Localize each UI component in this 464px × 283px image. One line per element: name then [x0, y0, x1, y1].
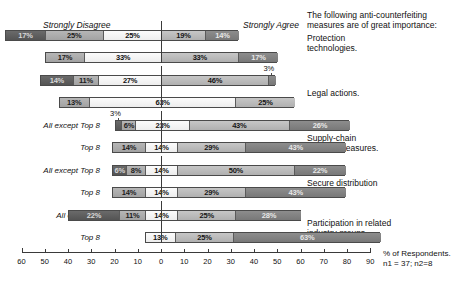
segment-value: 17%: [251, 53, 265, 62]
axis-tick-label: 70: [316, 257, 332, 266]
bar-segment: 26%: [290, 121, 350, 130]
zero-reference-line: [161, 111, 162, 153]
bar-segment: 13%: [60, 98, 90, 107]
bar-segment: [116, 121, 123, 130]
stacked-bar: 13%25%63%: [145, 232, 380, 243]
prompt-line-2: measures are of great importance:: [307, 20, 437, 31]
axis-tick: [161, 249, 162, 253]
bar-segment: 25%: [236, 98, 294, 107]
stacked-bar: 14%14%29%43%: [112, 142, 345, 153]
row-label: Top 8: [5, 188, 100, 197]
axis-tick-label: 50: [269, 257, 285, 266]
axis-tick-label: 40: [246, 257, 262, 266]
segment-value: 43%: [232, 121, 246, 130]
category-label: technologies.: [307, 43, 357, 54]
segment-callout: 3%: [263, 64, 274, 73]
bar-segment: 14%: [206, 31, 239, 40]
bar-segment: 22%: [295, 166, 346, 175]
zero-reference-line: [161, 21, 162, 63]
axis-tick-label: 20: [107, 257, 123, 266]
segment-value: 25%: [67, 31, 81, 40]
bar-segment: 6%: [113, 166, 127, 175]
axis-tick: [254, 249, 255, 253]
category-label: Legal actions.: [307, 88, 359, 99]
bar-segment: 17%: [46, 53, 86, 62]
axis-tick: [301, 249, 302, 253]
axis-tick-label: 80: [339, 257, 355, 266]
axis-tick: [45, 249, 46, 253]
axis-tick-label: 90: [362, 257, 378, 266]
row-label: Top 8: [5, 143, 100, 152]
segment-value: 27%: [123, 76, 137, 85]
bar-segment: 29%: [178, 188, 245, 197]
stacked-bar: 17%25%25%19%14%: [5, 30, 238, 41]
segment-value: 63%: [155, 98, 169, 107]
segment-callout: 3%: [110, 109, 121, 118]
segment-value: 14%: [50, 76, 64, 85]
segment-value: 13%: [67, 98, 81, 107]
segment-value: 14%: [122, 143, 136, 152]
segment-value: 25%: [200, 211, 214, 220]
bar-segment: 33%: [85, 53, 162, 62]
segment-value: 26%: [313, 121, 327, 130]
bar-segment: 43%: [246, 143, 346, 152]
row-label: All except Top 8: [5, 121, 100, 130]
axis-tick: [277, 249, 278, 253]
bar-segment: 63%: [90, 98, 236, 107]
callout-leader: [271, 73, 272, 76]
segment-value: 33%: [116, 53, 130, 62]
bar-segment: 14%: [113, 188, 146, 197]
segment-value: 25%: [197, 233, 211, 242]
segment-value: 22%: [87, 211, 101, 220]
axis-label-line-2: n1 = 37; n2=8: [383, 259, 432, 270]
bar-segment: 25%: [178, 211, 236, 220]
stacked-bar: 14%11%27%46%: [40, 75, 275, 86]
segment-value: 25%: [258, 98, 272, 107]
axis-tick: [208, 249, 209, 253]
axis-line: [22, 252, 371, 253]
axis-tick: [22, 249, 23, 253]
stacked-bar: 13%63%25%: [59, 97, 294, 108]
bar-segment: 25%: [104, 31, 162, 40]
stacked-bar: 6%8%14%50%22%: [112, 165, 345, 176]
bar-segment: 11%: [74, 76, 100, 85]
segment-value: 46%: [208, 76, 222, 85]
segment-value: 17%: [18, 31, 32, 40]
axis-tick: [184, 249, 185, 253]
axis-tick-label: 30: [83, 257, 99, 266]
bar-segment: 25%: [176, 233, 234, 242]
bar-segment: 11%: [120, 211, 146, 220]
bar-segment: 50%: [178, 166, 294, 175]
segment-value: 6%: [114, 166, 124, 175]
segment-value: 63%: [300, 233, 314, 242]
axis-tick-label: 60: [293, 257, 309, 266]
axis-tick: [115, 249, 116, 253]
segment-value: 29%: [204, 188, 218, 197]
bar-segment: 63%: [234, 233, 380, 242]
right-anchor-label: Strongly Agree: [243, 20, 299, 30]
segment-value: 23%: [155, 121, 169, 130]
axis-tick: [347, 249, 348, 253]
bar-segment: 14%: [41, 76, 74, 85]
bar-segment: 17%: [239, 53, 279, 62]
axis-tick-label: 40: [60, 257, 76, 266]
bar-segment: 22%: [69, 211, 120, 220]
segment-value: 50%: [229, 166, 243, 175]
segment-value: 29%: [204, 143, 218, 152]
bar-segment: 17%: [6, 31, 46, 40]
segment-value: 33%: [193, 53, 207, 62]
bar-segment: 25%: [46, 31, 104, 40]
bar-segment: 23%: [136, 121, 189, 130]
stacked-bar: 22%11%14%25%28%: [68, 210, 301, 221]
left-anchor-label: Strongly Disagree: [43, 20, 111, 30]
axis-tick: [370, 249, 371, 253]
axis-tick: [91, 249, 92, 253]
axis-tick-label: 0: [153, 257, 169, 266]
zero-reference-line: [161, 156, 162, 198]
callout-leader: [118, 118, 119, 121]
axis-tick-label: 30: [223, 257, 239, 266]
axis-tick: [231, 249, 232, 253]
segment-value: 14%: [215, 31, 229, 40]
segment-value: 11%: [125, 211, 139, 220]
zero-reference-line: [161, 66, 162, 108]
